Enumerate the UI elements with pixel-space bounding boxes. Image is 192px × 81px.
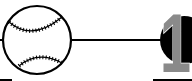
baseball-year-logo: 19 [0,0,192,81]
bottom-rule-right [153,79,192,81]
year-digits: 19 [160,0,192,81]
left-stub-line [0,39,3,41]
baseball-icon [3,6,71,74]
connector-line [71,39,163,41]
bottom-rule-left [0,79,12,81]
year-text: 19 [160,0,192,81]
